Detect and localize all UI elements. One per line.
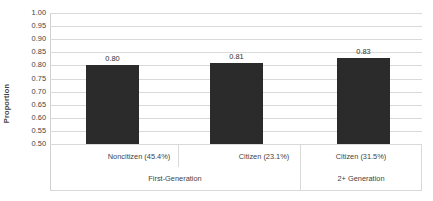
y-axis-tick-label: 0.65 xyxy=(18,101,46,109)
y-axis-tick-label: 0.55 xyxy=(18,127,46,135)
category-label: Citizen (23.1%) xyxy=(228,145,300,167)
bar-chart: Proportion 1.000.950.900.850.800.750.700… xyxy=(0,0,433,201)
gridline xyxy=(50,26,422,27)
bar xyxy=(210,63,263,144)
y-axis-title: Proportion xyxy=(0,58,14,148)
category-label-area: Noncitizen (45.4%)Citizen (23.1%)Citizen… xyxy=(50,145,422,190)
bar-value-label: 0.81 xyxy=(210,52,263,61)
bar-value-label: 0.80 xyxy=(86,54,139,63)
category-label: Citizen (31.5%) xyxy=(300,145,422,167)
y-axis-tick-label: 1.00 xyxy=(18,9,46,17)
bar xyxy=(86,65,139,144)
category-separator xyxy=(178,145,179,167)
bar-value-label: 0.83 xyxy=(337,47,390,56)
category-label: Noncitizen (45.4%) xyxy=(50,145,228,167)
gridline xyxy=(50,13,422,14)
group-row: First-Generation2+ Generation xyxy=(50,167,422,191)
plot-area: 0.800.810.83 xyxy=(50,13,422,144)
group-separator xyxy=(300,145,301,190)
gridline xyxy=(50,39,422,40)
y-axis-tick-label: 0.60 xyxy=(18,114,46,122)
y-axis-tick-label: 0.70 xyxy=(18,88,46,96)
category-row: Noncitizen (45.4%)Citizen (23.1%)Citizen… xyxy=(50,145,422,167)
y-axis-tick-label: 0.85 xyxy=(18,48,46,56)
y-axis-tick-label: 0.50 xyxy=(18,140,46,148)
y-axis-title-text: Proportion xyxy=(3,83,12,122)
group-label: First-Generation xyxy=(50,167,300,190)
y-axis-tick-label: 0.75 xyxy=(18,75,46,83)
y-axis-tick-label: 0.95 xyxy=(18,22,46,30)
y-axis-tick-label: 0.80 xyxy=(18,61,46,69)
group-label: 2+ Generation xyxy=(300,167,422,190)
bar xyxy=(337,58,390,144)
label-box-right-edge xyxy=(421,145,422,190)
y-axis-tick-labels: 1.000.950.900.850.800.750.700.650.600.55… xyxy=(18,0,46,201)
y-axis-tick-label: 0.90 xyxy=(18,35,46,43)
